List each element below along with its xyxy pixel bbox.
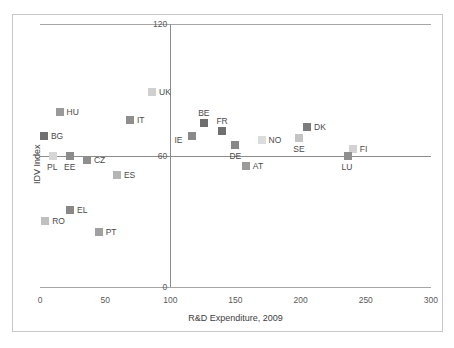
- data-point-marker: [218, 127, 226, 135]
- top-gridline: [40, 24, 431, 25]
- x-tick-label: 200: [288, 295, 314, 305]
- x-tick-label: 100: [157, 295, 183, 305]
- data-point-marker: [83, 156, 91, 164]
- data-point-label: IE: [174, 135, 182, 145]
- data-point-marker: [126, 116, 134, 124]
- data-point-marker: [113, 171, 121, 179]
- data-point-label: FI: [360, 144, 368, 154]
- data-point-label: BG: [51, 131, 63, 141]
- data-point-label: FR: [216, 116, 227, 126]
- data-point-label: DK: [314, 122, 326, 132]
- data-point-marker: [295, 134, 303, 142]
- data-point-label: UK: [159, 87, 171, 97]
- x-tick-label: 250: [353, 295, 379, 305]
- data-point-label: IT: [137, 115, 145, 125]
- y-tick-label: 120: [143, 19, 167, 29]
- data-point-marker: [303, 123, 311, 131]
- x-tick-label: 300: [418, 295, 444, 305]
- plot-area: 060120050100150200250300R&D Expenditure,…: [0, 0, 454, 348]
- data-point-label: AT: [253, 161, 263, 171]
- data-point-marker: [66, 206, 74, 214]
- data-point-marker: [49, 152, 57, 160]
- data-point-label: HU: [67, 107, 79, 117]
- data-point-marker: [95, 228, 103, 236]
- vertical-reference-line: [170, 24, 171, 287]
- data-point-label: PT: [106, 227, 117, 237]
- data-point-marker: [231, 141, 239, 149]
- data-point-label: BE: [198, 108, 209, 118]
- data-point-label: PL: [47, 162, 57, 172]
- data-point-label: EL: [77, 205, 87, 215]
- x-tick-label: 0: [27, 295, 53, 305]
- x-tick-label: 50: [92, 295, 118, 305]
- y-axis-title: IDV Index: [32, 144, 42, 184]
- data-point-label: CZ: [94, 155, 105, 165]
- data-point-marker: [258, 136, 266, 144]
- data-point-label: ES: [124, 170, 135, 180]
- x-tick-label: 150: [222, 295, 248, 305]
- data-point-marker: [41, 217, 49, 225]
- data-point-label: EE: [64, 162, 75, 172]
- x-axis-line: [40, 287, 431, 288]
- data-point-marker: [200, 119, 208, 127]
- data-point-label: SE: [293, 144, 304, 154]
- data-point-marker: [40, 132, 48, 140]
- data-point-marker: [188, 132, 196, 140]
- data-point-marker: [66, 152, 74, 160]
- data-point-marker: [242, 162, 250, 170]
- data-point-label: RO: [52, 216, 65, 226]
- data-point-label: LU: [342, 162, 353, 172]
- scatter-chart: 060120050100150200250300R&D Expenditure,…: [0, 0, 454, 348]
- data-point-label: DE: [229, 151, 241, 161]
- data-point-marker: [148, 88, 156, 96]
- data-point-marker: [344, 152, 352, 160]
- y-tick-label: 0: [143, 282, 167, 292]
- data-point-marker: [56, 108, 64, 116]
- data-point-label: NO: [269, 135, 282, 145]
- y-tick-label: 60: [143, 151, 167, 161]
- x-axis-title: R&D Expenditure, 2009: [135, 313, 335, 323]
